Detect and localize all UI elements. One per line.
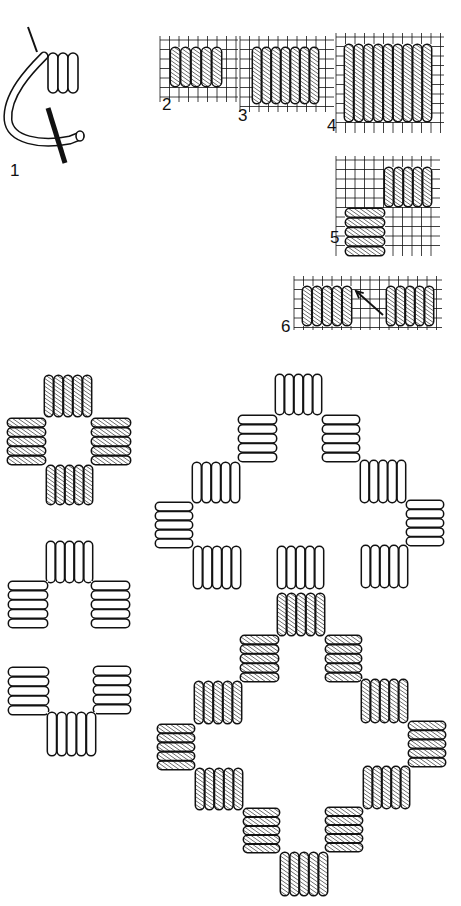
- stitch: [342, 286, 351, 325]
- stitch: [280, 852, 289, 895]
- motif-large-outline-block-7: [193, 546, 241, 589]
- stitch: [213, 546, 222, 588]
- stitch: [325, 816, 362, 824]
- stitch: [399, 545, 408, 587]
- stitch: [91, 428, 130, 437]
- stitch: [406, 519, 443, 528]
- stitch: [322, 453, 359, 462]
- stitch: [212, 47, 222, 86]
- stitch: [374, 44, 383, 121]
- stitch: [243, 835, 279, 843]
- stitch: [325, 645, 361, 654]
- stitch: [296, 546, 305, 588]
- label-diagram-3: 3: [238, 107, 247, 124]
- stitch: [345, 247, 384, 256]
- stitch: [345, 237, 384, 246]
- stitch: [297, 593, 306, 635]
- label-diagram-6: 6: [281, 318, 290, 335]
- stitch: [155, 539, 192, 548]
- stitch: [47, 712, 56, 755]
- stitch: [205, 768, 214, 809]
- stitch-block-d5-0: [384, 167, 432, 207]
- stitch: [322, 415, 359, 424]
- stitch: [408, 749, 445, 758]
- stitch: [221, 462, 230, 502]
- stitch: [240, 645, 278, 654]
- stitch: [392, 766, 401, 808]
- stitch: [332, 286, 341, 325]
- stitch: [325, 807, 362, 815]
- stitch: [371, 679, 380, 722]
- stitch: [345, 228, 384, 237]
- motif-large-outline-block-0: [275, 374, 322, 415]
- motif-large-hatched-block-10: [325, 807, 363, 852]
- stitch: [360, 460, 369, 502]
- stitch: [306, 546, 315, 588]
- stitch: [415, 286, 424, 325]
- motif-small-cross-block-2: [91, 418, 131, 465]
- stitch: [275, 374, 284, 414]
- stitch: [312, 286, 321, 325]
- label-diagram-4: 4: [327, 117, 336, 134]
- stitch: [84, 541, 93, 582]
- stitch: [57, 712, 66, 755]
- stitch: [157, 752, 194, 761]
- stitch: [406, 500, 443, 509]
- stitch: [325, 843, 362, 851]
- stitch: [325, 635, 361, 644]
- stitch: [394, 167, 403, 206]
- stitch: [386, 286, 395, 325]
- motif-large-outline-block-3: [192, 462, 240, 503]
- stitch: [93, 705, 130, 714]
- stitch: [65, 541, 74, 582]
- stitch: [170, 47, 180, 86]
- stitch: [215, 768, 224, 809]
- stitch: [310, 47, 319, 103]
- stitch: [8, 677, 48, 686]
- stitch: [243, 844, 279, 852]
- stitch: [361, 679, 370, 722]
- stitch: [380, 679, 389, 722]
- stitch: [390, 545, 399, 587]
- stitch: [277, 546, 286, 588]
- motif-large-hatched-block-9: [243, 808, 280, 853]
- motif-large-outline-block-4: [360, 460, 406, 503]
- stitch: [222, 546, 231, 588]
- stitch: [287, 593, 296, 635]
- motif-large-hatched-block-2: [325, 635, 362, 682]
- stitch: [238, 415, 276, 424]
- stitch: [294, 374, 303, 414]
- stitch-block-d2-0: [170, 47, 222, 87]
- stitch-diagram-canvas: [0, 0, 461, 906]
- stitch: [191, 47, 201, 86]
- stitch: [240, 635, 278, 644]
- motif-large-outline-block-5: [155, 502, 193, 548]
- stitch: [93, 686, 130, 695]
- stitch: [281, 47, 290, 103]
- stitch: [240, 654, 278, 663]
- motif-large-hatched-block-6: [408, 721, 446, 767]
- stitch: [373, 766, 382, 808]
- stitch: [231, 462, 240, 502]
- stitch: [403, 44, 412, 121]
- motif-large-hatched-block-7: [195, 768, 243, 810]
- stitch: [306, 593, 315, 635]
- stitch: [315, 546, 324, 588]
- stitch: [322, 444, 359, 453]
- coil-stack: [48, 53, 78, 93]
- stitch: [240, 664, 278, 673]
- stitch: [157, 724, 194, 733]
- stitch-block-d6-0: [302, 286, 352, 326]
- stitch: [345, 208, 384, 217]
- stitch: [64, 375, 73, 416]
- stitch: [238, 444, 276, 453]
- stitch: [322, 286, 331, 325]
- stitch: [325, 825, 362, 833]
- stitch: [361, 545, 370, 587]
- motif-small-u-block-0: [8, 667, 49, 715]
- stitch: [322, 425, 359, 434]
- stitch: [46, 541, 55, 582]
- stitch: [396, 286, 405, 325]
- stitch: [91, 581, 129, 590]
- stitch: [408, 758, 445, 767]
